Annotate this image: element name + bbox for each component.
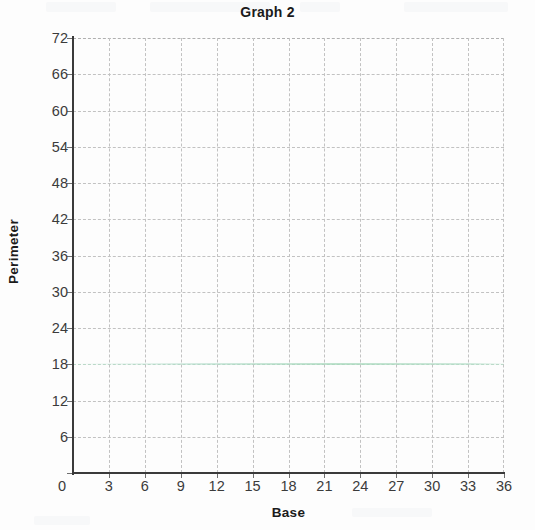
chart-title: Graph 2 xyxy=(0,4,535,20)
gridline-vertical xyxy=(432,38,433,473)
gridline-horizontal xyxy=(73,183,504,184)
gridline-horizontal xyxy=(73,111,504,112)
x-axis-tick-label: 33 xyxy=(448,479,488,494)
gridline-horizontal xyxy=(73,256,504,257)
gridline-vertical xyxy=(109,38,110,473)
gridline-horizontal xyxy=(73,147,504,148)
y-axis-spine xyxy=(72,36,74,475)
x-axis-tick-label: 36 xyxy=(484,479,524,494)
x-axis-tick-label: 27 xyxy=(376,479,416,494)
y-axis-tick xyxy=(67,473,72,474)
gridline-horizontal xyxy=(73,74,504,75)
y-axis-tick-label: 36 xyxy=(28,249,68,264)
gridline-tint-artifact xyxy=(73,363,504,365)
gridline-horizontal xyxy=(73,328,504,329)
x-axis-tick-label: 3 xyxy=(89,479,129,494)
y-axis-title-text: Perimeter xyxy=(6,219,21,284)
gridline-vertical xyxy=(503,38,504,473)
gridline-horizontal xyxy=(73,38,504,39)
gridline-vertical xyxy=(217,38,218,473)
gridline-vertical xyxy=(145,38,146,473)
gridline-horizontal xyxy=(73,401,504,402)
y-axis-tick-label: 30 xyxy=(28,285,68,300)
x-axis-tick-label: 30 xyxy=(412,479,452,494)
gridline-horizontal xyxy=(73,219,504,220)
y-axis-title: Perimeter xyxy=(0,0,26,530)
chart-figure: Graph 2 Perimeter Base 61218243036424854… xyxy=(0,0,535,530)
gridline-vertical xyxy=(289,38,290,473)
x-axis-tick-label: 15 xyxy=(233,479,273,494)
y-axis-tick-label: 54 xyxy=(28,140,68,155)
gridline-vertical xyxy=(468,38,469,473)
gridline-vertical xyxy=(396,38,397,473)
y-axis-tick-label: 42 xyxy=(28,212,68,227)
gridline-horizontal xyxy=(73,437,504,438)
y-axis-tick-label: 6 xyxy=(28,430,68,445)
x-axis-title: Base xyxy=(73,505,504,520)
gridline-horizontal xyxy=(73,292,504,293)
x-axis-tick-label: 9 xyxy=(161,479,201,494)
y-axis-tick-label: 18 xyxy=(28,357,68,372)
gridline-vertical xyxy=(253,38,254,473)
x-axis-tick-label: 21 xyxy=(304,479,344,494)
y-axis-tick-label: 12 xyxy=(28,394,68,409)
x-axis-tick-label: 24 xyxy=(340,479,380,494)
gridline-horizontal xyxy=(73,364,504,365)
x-axis-tick-label: 18 xyxy=(269,479,309,494)
y-axis-tick-label: 60 xyxy=(28,104,68,119)
y-axis-tick-label: 72 xyxy=(28,31,68,46)
gridline-vertical xyxy=(181,38,182,473)
y-axis-tick-label: 66 xyxy=(28,67,68,82)
origin-tick-label: 0 xyxy=(42,479,82,494)
y-axis-tick-label: 48 xyxy=(28,176,68,191)
gridline-vertical xyxy=(360,38,361,473)
plot-area xyxy=(73,38,504,473)
y-axis-tick-label: 24 xyxy=(28,321,68,336)
x-axis-tick-label: 6 xyxy=(125,479,165,494)
x-axis-tick-label: 12 xyxy=(197,479,237,494)
gridline-vertical xyxy=(324,38,325,473)
